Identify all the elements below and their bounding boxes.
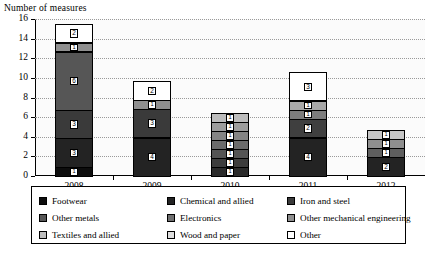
chart-root: Number of measures 0246810121416 1336124…: [0, 0, 437, 259]
legend-swatch: [167, 214, 175, 222]
bar-segment-value-label: 1: [70, 44, 77, 52]
y-axis-tick-label: 16: [19, 14, 29, 24]
x-axis-tick: [269, 176, 270, 180]
legend-swatch: [287, 197, 295, 205]
bar-segment[interactable]: 1: [211, 122, 249, 132]
legend-label: Footwear: [52, 196, 87, 206]
bar-segment[interactable]: 1: [55, 43, 93, 53]
bar-segment[interactable]: 1: [133, 100, 171, 110]
bar-segment-value-label: 1: [382, 131, 389, 139]
legend-swatch: [167, 197, 175, 205]
bar-segment-value-label: 1: [226, 123, 233, 131]
bar-segment[interactable]: 1: [367, 130, 405, 140]
legend: FootwearChemical and alliedIron and stee…: [31, 186, 406, 244]
legend-grid: FootwearChemical and alliedIron and stee…: [32, 187, 405, 243]
bar-segment-value-label: 2: [70, 29, 78, 37]
legend-item[interactable]: Chemical and allied: [167, 196, 287, 206]
bar-segment[interactable]: 1: [367, 148, 405, 158]
bar-segment[interactable]: 1: [211, 158, 249, 168]
legend-item[interactable]: Electronics: [167, 213, 287, 223]
bar-segment[interactable]: 1: [55, 167, 93, 177]
bar-segment[interactable]: 1: [211, 140, 249, 150]
y-axis-tick-label: 8: [23, 93, 28, 103]
bar-stack[interactable]: 2111: [367, 130, 405, 176]
bar-segment[interactable]: 2: [55, 24, 93, 44]
legend-item[interactable]: Other mechanical engineering: [287, 213, 411, 223]
bar-segment[interactable]: 1: [211, 149, 249, 159]
bar-segment-value-label: 4: [304, 153, 312, 161]
legend-label: Wood and paper: [180, 230, 240, 240]
y-axis-tick-label: 14: [19, 34, 29, 44]
legend-label: Chemical and allied: [180, 196, 253, 206]
bar-segment-value-label: 6: [70, 77, 78, 85]
bar-segment[interactable]: 1: [289, 110, 327, 120]
bar-segment-value-label: 1: [226, 132, 233, 140]
legend-item[interactable]: Other metals: [39, 213, 167, 223]
legend-item[interactable]: Footwear: [39, 196, 167, 206]
legend-swatch: [39, 231, 47, 239]
y-axis-tick-label: 2: [23, 152, 28, 162]
legend-item[interactable]: Iron and steel: [287, 196, 411, 206]
bar-stack[interactable]: 1111111: [211, 113, 249, 176]
bar-segment-value-label: 1: [226, 114, 233, 122]
legend-item[interactable]: Wood and paper: [167, 230, 287, 240]
y-axis-tick-label: 12: [19, 54, 29, 64]
bar-segment-value-label: 3: [70, 149, 78, 157]
bar-segment[interactable]: 1: [211, 113, 249, 123]
bar-segment-value-label: 3: [148, 119, 156, 127]
bar-segment[interactable]: 3: [55, 110, 93, 139]
bar-segment[interactable]: 3: [55, 138, 93, 167]
y-axis-tick-label: 10: [19, 73, 29, 83]
bar-segment-value-label: 1: [226, 141, 233, 149]
y-axis-tick: [31, 176, 35, 177]
bar-stack[interactable]: 4312: [133, 81, 171, 176]
bar-segment[interactable]: 1: [211, 167, 249, 177]
legend-item[interactable]: Other: [287, 230, 411, 240]
legend-item[interactable]: Textiles and allied: [39, 230, 167, 240]
plot-area: 0246810121416 13361243121111111421132111…: [35, 19, 425, 176]
bar-segment[interactable]: 1: [289, 101, 327, 111]
bar-segment-value-label: 1: [304, 111, 311, 119]
bar-segment-value-label: 2: [304, 124, 312, 132]
legend-swatch: [287, 231, 295, 239]
bar-segment[interactable]: 2: [133, 81, 171, 101]
y-axis-tick-label: 0: [23, 171, 28, 181]
bar-segment-value-label: 2: [148, 87, 156, 95]
bar-segment-value-label: 1: [304, 102, 311, 110]
bar-segment[interactable]: 2: [289, 119, 327, 139]
y-axis-tick-label: 6: [23, 112, 28, 122]
legend-label: Textiles and allied: [52, 230, 119, 240]
legend-label: Other mechanical engineering: [300, 213, 411, 223]
bar-segment-value-label: 3: [304, 83, 312, 91]
bar-segment[interactable]: 6: [55, 52, 93, 111]
bar-segment-value-label: 4: [148, 153, 156, 161]
bar-segment-value-label: 1: [226, 168, 233, 176]
x-axis-tick: [347, 176, 348, 180]
bar-segment-value-label: 1: [226, 150, 233, 158]
bar-segment[interactable]: 1: [211, 131, 249, 141]
legend-swatch: [39, 197, 47, 205]
y-axis-title: Number of measures: [4, 3, 87, 13]
legend-label: Electronics: [180, 213, 221, 223]
legend-label: Other: [300, 230, 321, 240]
bar-segment[interactable]: 4: [289, 138, 327, 177]
bar-segment[interactable]: 2: [367, 157, 405, 177]
bar-segment-value-label: 1: [70, 168, 77, 176]
bar-segment-value-label: 1: [148, 101, 155, 109]
bar-segment-value-label: 2: [382, 163, 390, 171]
bar-segment-value-label: 1: [382, 149, 389, 157]
y-axis-tick-label: 4: [23, 132, 28, 142]
bar-segment[interactable]: 4: [133, 138, 171, 177]
bar-segment[interactable]: 1: [367, 139, 405, 149]
bar-segment-value-label: 1: [226, 159, 233, 167]
bar-stack[interactable]: 42113: [289, 72, 327, 176]
bar-segment[interactable]: 3: [289, 72, 327, 101]
legend-swatch: [287, 214, 295, 222]
legend-label: Iron and steel: [300, 196, 350, 206]
bar-stack[interactable]: 133612: [55, 24, 93, 176]
x-axis-tick: [191, 176, 192, 180]
bar-series-layer: 13361243121111111421132111: [35, 19, 425, 176]
bar-segment[interactable]: 3: [133, 109, 171, 138]
x-axis-tick: [113, 176, 114, 180]
legend-label: Other metals: [52, 213, 99, 223]
